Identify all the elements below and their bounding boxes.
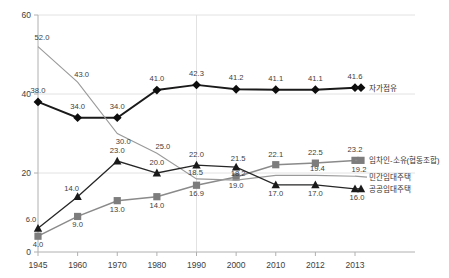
chart-legend: 자가점유임차인-소유(협동조합)민간임대주택공공임대주택 xyxy=(355,83,440,194)
x-tick-label: 2013 xyxy=(346,260,365,270)
data-point-label: 22.0 xyxy=(189,150,204,159)
data-point-label: 6.0 xyxy=(26,215,37,224)
series-marker xyxy=(34,224,42,232)
data-point-label: 34.0 xyxy=(70,102,85,111)
data-point-label: 42.3 xyxy=(189,69,204,78)
series-marker xyxy=(193,182,200,189)
legend-label: 임차인-소유(협동조합) xyxy=(369,155,440,165)
data-point-label: 16.9 xyxy=(189,189,204,198)
series-marker xyxy=(271,85,280,94)
series-marker xyxy=(34,233,41,240)
data-point-label: 22.5 xyxy=(308,148,323,157)
data-point-label: 38.0 xyxy=(31,86,46,95)
legend-label: 자가점유 xyxy=(369,83,397,93)
data-point-label: 23.2 xyxy=(348,145,363,154)
series-marker xyxy=(272,161,279,168)
line-chart: 0204060 19451960197019801990200020102012… xyxy=(0,0,449,278)
data-point-label: 41.2 xyxy=(229,73,244,82)
legend-label: 공공임대주택 xyxy=(369,184,411,194)
legend-marker xyxy=(357,83,366,92)
data-point-label: 4.0 xyxy=(33,240,44,249)
axes xyxy=(38,15,415,252)
legend-label: 민간임대주택 xyxy=(369,172,411,182)
chart-container: 0204060 19451960197019801990200020102012… xyxy=(0,0,449,278)
data-point-label: 17.0 xyxy=(308,189,323,198)
series-marker xyxy=(153,193,160,200)
data-point-label: 41.6 xyxy=(348,72,363,81)
x-tick-label: 1945 xyxy=(29,260,48,270)
data-point-label: 20.0 xyxy=(149,158,164,167)
data-point-label: 19.4 xyxy=(310,164,325,173)
data-point-label: 41.1 xyxy=(308,74,323,83)
series-marker xyxy=(232,85,241,94)
series-marker xyxy=(192,81,201,90)
series-marker xyxy=(114,197,121,204)
data-point-label: 22.1 xyxy=(268,150,283,159)
legend-connector xyxy=(355,176,367,177)
data-point-label: 30.0 xyxy=(116,137,131,146)
series-marker xyxy=(74,213,81,220)
data-point-label: 23.0 xyxy=(110,146,125,155)
data-point-label: 34.0 xyxy=(110,102,125,111)
data-point-label: 17.0 xyxy=(268,189,283,198)
x-tick-label: 2012 xyxy=(306,260,325,270)
data-point-label: 16.0 xyxy=(350,193,365,202)
x-axis-ticks: 194519601970198019902000201020122013 xyxy=(29,252,365,270)
data-point-label: 19.0 xyxy=(229,181,244,190)
data-point-label: 21.5 xyxy=(231,154,246,163)
series-marker xyxy=(34,98,43,107)
data-point-label: 41.0 xyxy=(149,74,164,83)
data-point-label: 14.0 xyxy=(149,201,164,210)
data-point-label: 19.2 xyxy=(352,165,367,174)
data-point-label: 18.5 xyxy=(188,168,203,177)
y-tick-label: 0 xyxy=(26,247,31,257)
series-marker xyxy=(73,113,82,122)
data-point-label: 41.1 xyxy=(268,74,283,83)
data-point-label: 13.0 xyxy=(110,205,125,214)
y-tick-label: 60 xyxy=(22,10,32,20)
data-point-label: 25.0 xyxy=(155,142,170,151)
x-tick-label: 1980 xyxy=(147,260,166,270)
data-point-label: 43.0 xyxy=(74,70,89,79)
x-tick-label: 1960 xyxy=(68,260,87,270)
x-tick-label: 1990 xyxy=(187,260,206,270)
x-tick-label: 2010 xyxy=(266,260,285,270)
series-marker xyxy=(113,157,121,165)
data-point-label: 9.0 xyxy=(72,220,83,229)
x-tick-label: 1970 xyxy=(108,260,127,270)
data-point-label: 18.2 xyxy=(231,169,246,178)
data-point-label: 14.0 xyxy=(64,184,79,193)
grid-lines xyxy=(38,15,415,252)
x-tick-label: 2000 xyxy=(227,260,246,270)
y-tick-label: 20 xyxy=(22,168,32,178)
legend-marker xyxy=(357,157,364,164)
series-marker xyxy=(311,85,320,94)
data-point-label: 52.0 xyxy=(35,33,50,42)
